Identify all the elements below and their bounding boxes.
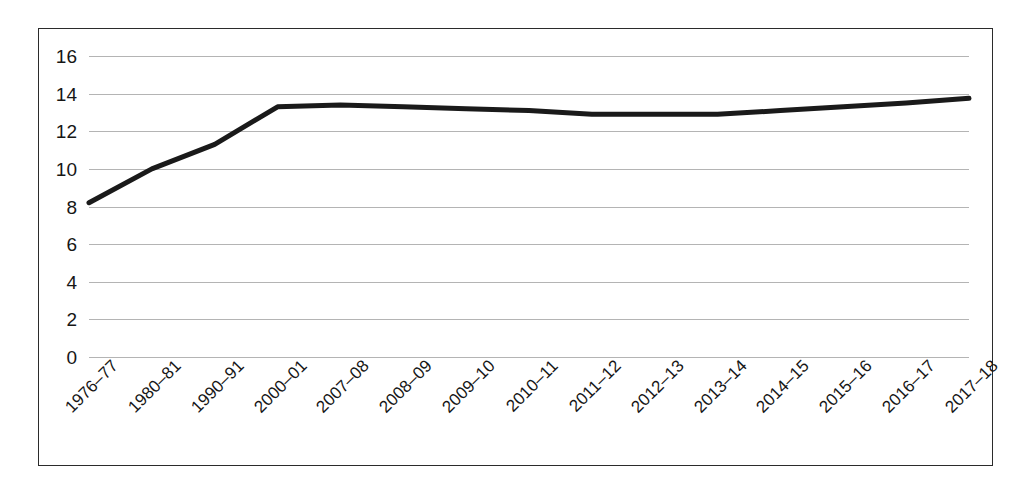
x-tick-label: 2008–09 (376, 357, 435, 416)
y-tick-label: 14 (56, 84, 77, 103)
x-tick-label: 1980–81 (125, 357, 184, 416)
x-tick-label: 2012–13 (628, 357, 687, 416)
line-series-svg (89, 56, 969, 357)
y-tick-label: 2 (66, 310, 77, 329)
y-tick-label: 16 (56, 47, 77, 66)
y-axis-tick-labels: 0246810121416 (39, 56, 83, 357)
x-tick-label: 2017–18 (942, 357, 1001, 416)
x-tick-label: 2016–17 (879, 357, 938, 416)
line-series-path (89, 98, 969, 202)
x-tick-label: 2010–11 (503, 357, 561, 415)
x-tick-label: 2007–08 (314, 357, 373, 416)
plot-area (89, 56, 969, 357)
x-tick-label: 2013–14 (691, 357, 750, 416)
x-tick-label: 2000–01 (251, 357, 310, 416)
y-tick-label: 4 (66, 272, 77, 291)
chart-outer-frame: 0246810121416 1976–771980–811990–912000–… (38, 28, 993, 466)
y-tick-label: 12 (56, 122, 77, 141)
y-tick-label: 10 (56, 159, 77, 178)
x-tick-label: 2014–15 (754, 357, 813, 416)
x-tick-label: 1990–91 (188, 357, 247, 416)
x-tick-label: 2015–16 (816, 357, 875, 416)
y-tick-label: 0 (66, 348, 77, 367)
y-tick-label: 6 (66, 235, 77, 254)
x-axis-tick-labels: 1976–771980–811990–912000–012007–082008–… (89, 357, 969, 467)
chart-figure: 0246810121416 1976–771980–811990–912000–… (0, 0, 1024, 496)
y-tick-label: 8 (66, 197, 77, 216)
x-tick-label: 2009–10 (439, 357, 498, 416)
x-tick-label: 2011–12 (566, 357, 624, 415)
